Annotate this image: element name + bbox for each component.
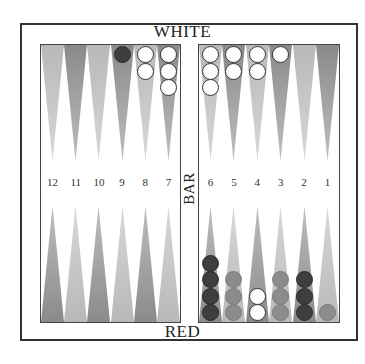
point-number-4: 4 [246, 176, 269, 188]
white-checker[interactable] [160, 63, 177, 80]
bottom-point-11[interactable] [64, 206, 87, 322]
point-number-11: 11 [64, 176, 87, 188]
white-checker[interactable] [225, 63, 242, 80]
dark-checker[interactable] [202, 271, 219, 288]
white-side-label: WHITE [0, 22, 365, 42]
top-point-11[interactable] [316, 45, 339, 161]
dark-checker[interactable] [202, 304, 219, 321]
dark-checker[interactable] [296, 288, 313, 305]
dark-checker[interactable] [114, 46, 131, 63]
point-number-3: 3 [269, 176, 292, 188]
point-number-2: 2 [293, 176, 316, 188]
white-checker[interactable] [249, 288, 266, 305]
gray-checker[interactable] [225, 288, 242, 305]
dark-checker[interactable] [296, 271, 313, 288]
bottom-point-12[interactable] [41, 206, 64, 322]
point-number-12: 12 [41, 176, 64, 188]
dark-checker[interactable] [296, 304, 313, 321]
top-point-1[interactable] [64, 45, 87, 161]
white-checker[interactable] [249, 304, 266, 321]
dark-checker[interactable] [202, 255, 219, 272]
white-checker[interactable] [202, 46, 219, 63]
point-number-10: 10 [87, 176, 110, 188]
point-number-5: 5 [222, 176, 245, 188]
gray-checker[interactable] [319, 304, 336, 321]
white-checker[interactable] [249, 63, 266, 80]
white-checker[interactable] [249, 46, 266, 63]
white-checker[interactable] [137, 46, 154, 63]
point-number-9: 9 [111, 176, 134, 188]
point-number-8: 8 [134, 176, 157, 188]
bar-label: BAR [181, 172, 198, 204]
dark-checker[interactable] [202, 288, 219, 305]
point-number-7: 7 [157, 176, 180, 188]
gray-checker[interactable] [272, 288, 289, 305]
white-checker[interactable] [202, 79, 219, 96]
bottom-point-9[interactable] [111, 206, 134, 322]
white-checker[interactable] [137, 63, 154, 80]
top-point-2[interactable] [87, 45, 110, 161]
bottom-point-8[interactable] [134, 206, 157, 322]
red-side-label: RED [0, 322, 365, 342]
white-checker[interactable] [160, 46, 177, 63]
white-checker[interactable] [202, 63, 219, 80]
bar-label-container: BAR [181, 168, 198, 208]
bottom-point-7[interactable] [157, 206, 180, 322]
white-checker[interactable] [160, 79, 177, 96]
bottom-point-10[interactable] [87, 206, 110, 322]
point-number-1: 1 [316, 176, 339, 188]
point-number-6: 6 [199, 176, 222, 188]
top-point-10[interactable] [293, 45, 316, 161]
top-point-0[interactable] [41, 45, 64, 161]
